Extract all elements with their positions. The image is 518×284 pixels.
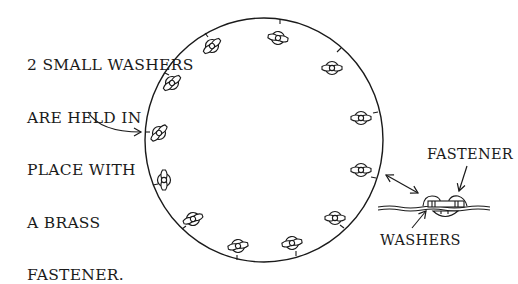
note-line-1: 2 SMALL WASHERS bbox=[27, 57, 194, 75]
washer-note: 2 SMALL WASHERS ARE HELD IN PLACE WITH A… bbox=[27, 22, 194, 284]
fastener-detail-drawing bbox=[378, 196, 490, 217]
washers-arrow bbox=[412, 211, 426, 228]
note-line-3: PLACE WITH bbox=[27, 162, 194, 180]
detail-link-arrow bbox=[386, 175, 418, 193]
note-line-4: A BRASS bbox=[27, 215, 194, 233]
note-line-5: FASTENER. bbox=[27, 267, 194, 284]
fastener-arrow bbox=[459, 166, 467, 191]
note-line-2: ARE HELD IN bbox=[27, 110, 194, 128]
washers-label: WASHERS bbox=[380, 232, 461, 250]
fastener-label: FASTENER bbox=[427, 146, 513, 164]
